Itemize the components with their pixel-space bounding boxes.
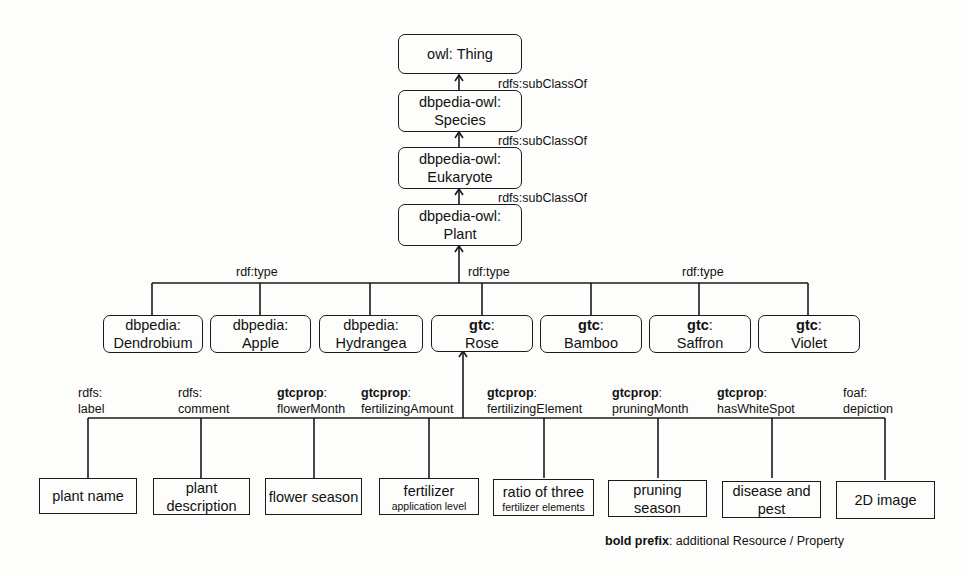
node-label: owl: Thing (427, 45, 493, 63)
property-label-fertilizingelement: gtcprop:fertilizingElement (487, 385, 582, 417)
legend-bold-part: bold prefix (605, 534, 669, 548)
property-label-foaf-depiction: foaf:depiction (843, 385, 893, 417)
instance-node-saffron: gtc: Saffron (649, 315, 751, 353)
class-node-species: dbpedia-owl: Species (398, 90, 522, 132)
legend-note: bold prefix: additional Resource / Prope… (605, 534, 844, 548)
value-node-2d-image: 2D image (836, 481, 935, 519)
value-node-plant-name: plant name (39, 478, 137, 514)
instance-prefix: gtc: (796, 316, 822, 334)
instance-prefix: gtc: (687, 316, 713, 334)
value-label: flower season (269, 488, 358, 506)
class-node-owl-thing: owl: Thing (398, 34, 522, 74)
instance-name: Apple (242, 334, 279, 352)
value-label-line2: season (634, 499, 681, 517)
class-node-eukaryote: dbpedia-owl: Eukaryote (398, 147, 522, 189)
instance-prefix: gtc: (578, 316, 604, 334)
node-label-name: Eukaryote (427, 168, 492, 186)
instance-name: Violet (791, 334, 827, 352)
instance-node-hydrangea: dbpedia: Hydrangea (319, 315, 423, 353)
edge-label-subclassof: rdfs:subClassOf (498, 133, 587, 149)
value-label-line2: fertilizer elements (502, 501, 584, 513)
instance-node-bamboo: gtc: Bamboo (540, 315, 642, 353)
instance-node-rose: gtc: Rose (431, 315, 533, 352)
value-node-fertilizer-ratio: ratio of three fertilizer elements (493, 479, 594, 516)
legend-rest: : additional Resource / Property (669, 534, 844, 548)
instance-node-violet: gtc: Violet (758, 315, 860, 353)
instance-node-apple: dbpedia: Apple (210, 315, 311, 353)
node-label-prefix: dbpedia-owl: (419, 207, 501, 225)
edge-label-rdf-type: rdf:type (682, 264, 724, 280)
value-node-fertilizer-level: fertilizer application level (379, 478, 479, 515)
value-node-flower-season: flower season (265, 478, 362, 515)
node-label-prefix: dbpedia-owl: (419, 150, 501, 168)
edge-label-subclassof: rdfs:subClassOf (498, 190, 587, 206)
property-label-rdfs-label: rdfs:label (78, 385, 104, 417)
value-label: plant (186, 479, 217, 497)
edge-label-subclassof: rdfs:subClassOf (498, 76, 587, 92)
instance-prefix: gtc: (469, 316, 495, 334)
value-label: 2D image (854, 491, 916, 509)
property-label-flowermonth: gtcprop:flowerMonth (277, 385, 345, 417)
value-label: fertilizer (404, 482, 455, 500)
edge-label-rdf-type: rdf:type (236, 264, 278, 280)
instance-name: Rose (465, 334, 499, 352)
value-label-line2: description (166, 497, 236, 515)
value-label: ratio of three (503, 483, 584, 501)
instance-name: Saffron (677, 334, 724, 352)
property-label-pruningmonth: gtcprop:pruningMonth (612, 385, 688, 417)
instance-name: Hydrangea (336, 334, 407, 352)
connector-lines (0, 0, 969, 575)
value-node-plant-description: plant description (153, 478, 250, 515)
value-node-pruning-season: pruning season (608, 480, 707, 517)
value-label-line2: pest (758, 500, 785, 518)
property-label-fertilizingamount: gtcprop:fertilizingAmount (361, 385, 453, 417)
instance-prefix: dbpedia: (125, 316, 181, 334)
node-label-prefix: dbpedia-owl: (419, 93, 501, 111)
instance-prefix: dbpedia: (343, 316, 399, 334)
node-label-name: Plant (443, 225, 476, 243)
instance-node-dendrobium: dbpedia: Dendrobium (103, 315, 203, 353)
instance-name: Dendrobium (114, 334, 193, 352)
edge-label-rdf-type: rdf:type (468, 264, 510, 280)
property-label-haswhitespot: gtcprop:hasWhiteSpot (717, 385, 795, 417)
value-label: pruning (633, 481, 681, 499)
node-label-name: Species (434, 111, 486, 129)
instance-name: Bamboo (564, 334, 618, 352)
class-node-plant: dbpedia-owl: Plant (398, 204, 522, 246)
instance-prefix: dbpedia: (233, 316, 289, 334)
value-node-disease-pest: disease and pest (722, 481, 821, 518)
value-label-line2: application level (392, 500, 467, 512)
value-label: plant name (52, 487, 124, 505)
property-label-rdfs-comment: rdfs:comment (178, 385, 229, 417)
value-label: disease and (732, 482, 810, 500)
